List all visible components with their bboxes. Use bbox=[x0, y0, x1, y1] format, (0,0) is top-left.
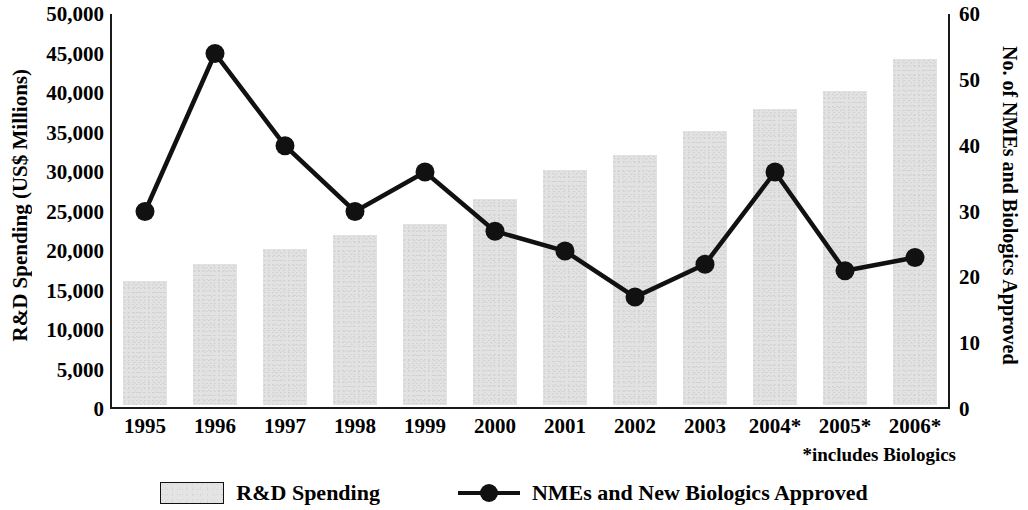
data-point-marker bbox=[486, 222, 505, 241]
line-path-nmes-approved bbox=[145, 54, 915, 298]
x-axis-tick-label: 2004* bbox=[749, 414, 802, 439]
x-axis-labels: 1995199619971998199920002001200220032004… bbox=[110, 414, 950, 444]
legend-bar-swatch-icon bbox=[160, 482, 224, 504]
legend-item-rd-spending: R&D Spending bbox=[160, 480, 380, 506]
data-point-marker bbox=[136, 202, 155, 221]
y-axis-right-title: No. of NMEs and Biologics Approved bbox=[992, 0, 1026, 410]
legend-line-dot-swatch-icon bbox=[458, 483, 520, 503]
data-point-marker bbox=[836, 261, 855, 280]
y-axis-left-tick-label: 40,000 bbox=[46, 81, 104, 106]
x-axis-tick-label: 1998 bbox=[334, 414, 376, 439]
y-axis-right-tick-label: 30 bbox=[959, 199, 980, 224]
x-axis-tick-label: 2001 bbox=[544, 414, 586, 439]
x-axis-tick-label: 2006* bbox=[889, 414, 942, 439]
x-axis-tick-label: 2003 bbox=[684, 414, 726, 439]
x-axis-tick-label: 1997 bbox=[264, 414, 306, 439]
y-axis-left-tick-label: 5,000 bbox=[57, 357, 104, 382]
data-point-marker bbox=[276, 136, 295, 155]
y-axis-left-title: R&D Spending (US$ Millions) bbox=[2, 0, 38, 410]
x-axis-tick-label: 2000 bbox=[474, 414, 516, 439]
data-point-marker bbox=[556, 242, 575, 261]
legend-label-rd-spending: R&D Spending bbox=[236, 480, 380, 506]
legend-item-nmes-approved: NMEs and New Biologics Approved bbox=[458, 480, 868, 506]
data-point-marker bbox=[766, 163, 785, 182]
data-point-marker bbox=[416, 163, 435, 182]
y-axis-left-title-text: R&D Spending (US$ Millions) bbox=[8, 69, 33, 341]
y-axis-left-tick-label: 10,000 bbox=[46, 318, 104, 343]
chart-figure: R&D Spending (US$ Millions) 05,00010,000… bbox=[0, 0, 1028, 510]
y-axis-right-tick-label: 60 bbox=[959, 2, 980, 27]
y-axis-left-tick-label: 15,000 bbox=[46, 278, 104, 303]
y-axis-right-ticks: 0102030405060 bbox=[953, 0, 995, 420]
x-axis-tick-label: 1996 bbox=[194, 414, 236, 439]
x-axis-tick-label: 1995 bbox=[124, 414, 166, 439]
y-axis-left-tick-label: 30,000 bbox=[46, 160, 104, 185]
footnote: *includes Biologics bbox=[802, 444, 956, 466]
y-axis-left-tick-label: 50,000 bbox=[46, 2, 104, 27]
y-axis-left-tick-label: 0 bbox=[94, 397, 105, 422]
data-point-marker bbox=[206, 44, 225, 63]
x-axis-tick-label: 1999 bbox=[404, 414, 446, 439]
y-axis-left-ticks: 05,00010,00015,00020,00025,00030,00035,0… bbox=[36, 0, 110, 420]
data-point-marker bbox=[626, 288, 645, 307]
y-axis-left-tick-label: 35,000 bbox=[46, 120, 104, 145]
legend-dot-marker-icon bbox=[480, 484, 498, 502]
y-axis-left-tick-label: 45,000 bbox=[46, 41, 104, 66]
y-axis-right-tick-label: 10 bbox=[959, 331, 980, 356]
chart-legend: R&D Spending NMEs and New Biologics Appr… bbox=[0, 478, 1028, 508]
data-point-marker bbox=[346, 202, 365, 221]
legend-label-nmes-approved: NMEs and New Biologics Approved bbox=[532, 480, 868, 506]
y-axis-left-tick-label: 25,000 bbox=[46, 199, 104, 224]
y-axis-right-tick-label: 40 bbox=[959, 133, 980, 158]
data-point-marker bbox=[906, 248, 925, 267]
x-axis-tick-label: 2002 bbox=[614, 414, 656, 439]
x-axis-tick-label: 2005* bbox=[819, 414, 872, 439]
line-series-nmes-approved bbox=[110, 10, 950, 409]
y-axis-right-title-text: No. of NMEs and Biologics Approved bbox=[998, 46, 1021, 365]
y-axis-right-tick-label: 0 bbox=[959, 397, 970, 422]
data-point-marker bbox=[696, 255, 715, 274]
y-axis-right-tick-label: 20 bbox=[959, 265, 980, 290]
y-axis-right-tick-label: 50 bbox=[959, 67, 980, 92]
y-axis-left-tick-label: 20,000 bbox=[46, 239, 104, 264]
plot-area bbox=[110, 10, 950, 409]
